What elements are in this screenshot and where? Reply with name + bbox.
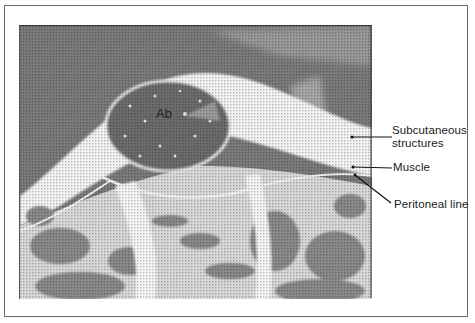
label-muscle: Muscle	[393, 161, 430, 174]
label-peritoneal-text: Peritoneal line	[394, 198, 468, 211]
label-muscle-text: Muscle	[393, 161, 430, 174]
label-peritoneal-line: Peritoneal line	[394, 198, 468, 211]
label-subcutaneous-line2: structures	[392, 137, 467, 150]
label-subcutaneous-line1: Subcutaneous	[392, 124, 467, 137]
label-subcutaneous: Subcutaneous structures	[392, 124, 467, 150]
